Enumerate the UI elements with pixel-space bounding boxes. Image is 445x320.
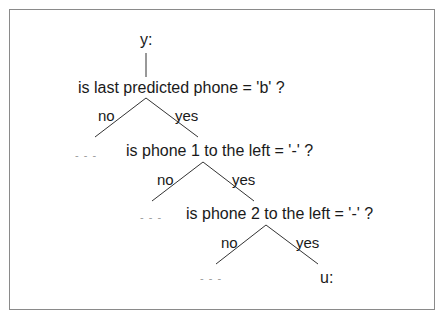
edge-label-no-3: no xyxy=(221,235,238,250)
question-3: is phone 2 to the left = '-' ? xyxy=(186,206,373,222)
question-2: is phone 1 to the left = '-' ? xyxy=(126,143,313,159)
edge-label-yes-3: yes xyxy=(296,235,319,250)
edge-label-no-1: no xyxy=(98,108,115,123)
ellipsis-branch-2: - - - xyxy=(140,212,162,223)
edge-label-yes-1: yes xyxy=(175,108,198,123)
root-label: y: xyxy=(140,32,152,48)
ellipsis-branch-3: - - - xyxy=(200,273,222,284)
ellipsis-branch-1: - - - xyxy=(75,150,97,161)
edge-label-yes-2: yes xyxy=(232,172,255,187)
edge-label-no-2: no xyxy=(157,172,174,187)
tree-edges xyxy=(0,0,445,320)
leaf-label: u: xyxy=(320,270,333,286)
question-1: is last predicted phone = 'b' ? xyxy=(78,80,285,96)
